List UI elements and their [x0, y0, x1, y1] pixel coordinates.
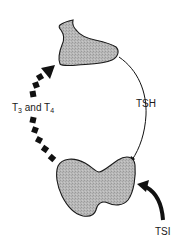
thyroid-gland [57, 157, 136, 216]
tsi-arrow-line [146, 187, 163, 220]
and-t-label: and T [22, 102, 50, 113]
tsh-label: TSH [136, 99, 156, 109]
pituitary-gland [59, 20, 118, 66]
tsi-label: TSI [155, 227, 171, 237]
t3-and-t4-label: T3 and T4 [12, 103, 54, 113]
tsi-arrowhead-icon [137, 180, 149, 192]
thyroid-feedback-diagram [0, 0, 176, 242]
subscript-4: 4 [50, 107, 54, 114]
